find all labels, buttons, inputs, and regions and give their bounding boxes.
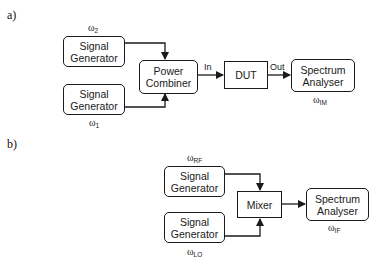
signal-generator-rf: Signal Generator [164,166,225,197]
signal-generator-omega-1: Signal Generator [63,84,125,115]
freq-label-omega-2: ω2 [88,22,98,34]
figure: a) ω2 Signal Generator Signal Generator … [0,0,378,263]
freq-label-omega-1: ω1 [89,117,99,129]
spectrum-analyser-b: Spectrum Analyser [306,188,369,221]
spectrum-analyser-a: Spectrum Analyser [291,59,355,92]
panel-label-b: b) [7,137,17,152]
dut-out-label: Out [270,62,285,72]
wire-sg2-to-combiner [125,43,165,59]
wire-rf-to-mixer [225,174,260,190]
panel-label-a: a) [7,8,16,23]
wire-lo-to-mixer [225,219,260,236]
dut-in-label: In [204,62,212,72]
freq-label-omega-lo: ωLO [187,246,202,258]
signal-generator-lo: Signal Generator [164,212,225,243]
signal-generator-omega-2: Signal Generator [63,36,125,67]
mixer-block: Mixer [237,191,282,218]
dut-block: DUT [224,61,268,89]
power-combiner: Power Combiner [139,60,198,94]
freq-label-omega-rf: ωRF [187,152,202,164]
freq-label-omega-if: ωIF [328,222,340,234]
wire-sg1-to-combiner [125,94,165,107]
freq-label-omega-im: ωIM [313,94,327,106]
